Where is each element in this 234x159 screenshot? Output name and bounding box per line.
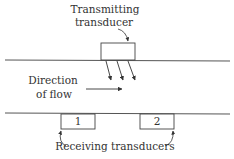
receiving-transducer-2: 2: [140, 114, 174, 129]
receiver-1-number: 1: [75, 115, 82, 127]
direction-label-line1: Direction: [28, 74, 78, 86]
transmitting-label-line1: Transmitting: [70, 3, 139, 15]
receiving-label: Receiving transducers: [55, 140, 174, 152]
receiving-transducer-1: 1: [61, 114, 95, 129]
flowmeter-diagram: Transmitting transducer Direction of flo…: [0, 0, 234, 159]
ultrasonic-beam-2: [117, 61, 123, 80]
direction-label-line2: of flow: [36, 88, 72, 100]
receiver-2-number: 2: [154, 115, 161, 127]
ultrasonic-beam-3: [128, 61, 135, 80]
transmitting-transducer: [101, 43, 135, 60]
ultrasonic-beam-1: [106, 61, 111, 80]
transmitting-pointer-arrow: [118, 29, 128, 41]
transmitting-label-line2: transducer: [75, 16, 134, 28]
pipe-bottom-wall: [5, 113, 230, 114]
